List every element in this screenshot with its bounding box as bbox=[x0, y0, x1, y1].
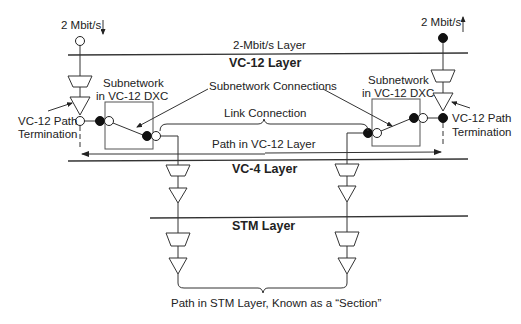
layer-line-vc4 bbox=[68, 159, 468, 161]
link-connection-label: Link Connection bbox=[224, 107, 306, 119]
left-rate-label: 2 Mbit/s bbox=[61, 19, 102, 31]
sdh-layer-diagram: 2-Mbit/s Layer VC-12 Layer VC-4 Layer ST… bbox=[0, 0, 521, 324]
subnetwork-connections-label: Subnetwork Connections bbox=[209, 80, 337, 92]
right-access-point bbox=[439, 34, 448, 43]
callout-right-termination bbox=[452, 102, 470, 108]
left-termination-label-1: VC-12 Path bbox=[18, 115, 77, 127]
left-dxc-in-open bbox=[105, 117, 114, 126]
right-termination-point bbox=[439, 114, 448, 123]
right-vc4-termination bbox=[338, 186, 356, 202]
left-termination-label-2: Termination bbox=[18, 128, 77, 140]
left-vc4-termination bbox=[169, 188, 187, 203]
layer-label-stm: STM Layer bbox=[232, 219, 295, 233]
stm-section-label: Path in STM Layer, Known as a “Section” bbox=[171, 297, 381, 309]
left-vc4-adaptation bbox=[166, 165, 190, 176]
left-subnetwork: Subnetwork in VC-12 DXC bbox=[96, 77, 169, 149]
left-dxc-box bbox=[105, 102, 153, 149]
right-stm-adaptation bbox=[335, 232, 359, 246]
left-dxc-in-filled bbox=[96, 117, 105, 126]
left-stm-termination bbox=[169, 258, 187, 274]
left-subnetwork-label-1: Subnetwork bbox=[103, 77, 164, 89]
layer-label-vc12: VC-12 Layer bbox=[229, 56, 301, 70]
left-subnetwork-connection bbox=[113, 123, 143, 135]
left-vc4-stm-stack bbox=[161, 136, 190, 283]
layer-line-2mbit bbox=[68, 53, 468, 55]
layer-label-2mbit: 2-Mbit/s Layer bbox=[233, 39, 306, 51]
right-subnetwork-label-1: Subnetwork bbox=[368, 74, 429, 86]
right-stm-termination bbox=[338, 258, 356, 274]
link-connection-brace bbox=[160, 119, 368, 131]
left-subnetwork-label-2: in VC-12 DXC bbox=[96, 90, 168, 102]
right-dxc-out-filled bbox=[410, 114, 419, 123]
path-vc12-label: Path in VC-12 Layer bbox=[212, 138, 316, 150]
right-adaptation-function bbox=[431, 70, 455, 82]
right-subnetwork: Subnetwork in VC-12 DXC bbox=[362, 74, 434, 146]
right-vc4-adaptation bbox=[335, 164, 359, 176]
left-dxc-out-open bbox=[152, 132, 161, 141]
callout-left-termination bbox=[48, 103, 72, 111]
left-adaptation-function bbox=[68, 76, 92, 87]
stm-section-brace bbox=[178, 283, 347, 293]
right-termination-label-2: Termination bbox=[452, 126, 511, 138]
layer-line-stm bbox=[150, 216, 468, 218]
right-rate-label: 2 Mbit/s bbox=[421, 16, 462, 28]
right-dxc-out-open bbox=[419, 114, 428, 123]
right-termination-label-1: VC-12 Path bbox=[452, 112, 511, 124]
right-vc4-stm-stack bbox=[335, 133, 363, 283]
left-termination-function bbox=[70, 97, 90, 115]
right-dxc-in-open bbox=[373, 129, 382, 138]
right-termination-function bbox=[433, 93, 453, 111]
left-stm-adaptation bbox=[166, 233, 190, 246]
left-dxc-out-filled bbox=[143, 132, 152, 141]
right-subnetwork-label-2: in VC-12 DXC bbox=[362, 87, 434, 99]
left-access-point bbox=[76, 37, 85, 46]
layer-label-vc4: VC-4 Layer bbox=[232, 162, 297, 176]
path-vc12-arrow-right bbox=[265, 152, 441, 153]
right-subnetwork-connection bbox=[381, 119, 410, 131]
